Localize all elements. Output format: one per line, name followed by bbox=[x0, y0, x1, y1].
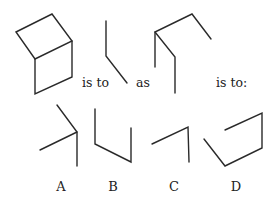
option-c-figure[interactable] bbox=[152, 127, 189, 162]
phrase-as: as bbox=[136, 77, 150, 90]
analogy-diagram: is to as is to: A B C D bbox=[0, 0, 276, 202]
phrase-is-to: is to bbox=[82, 77, 109, 90]
option-c-label[interactable]: C bbox=[169, 180, 179, 193]
option-d-figure[interactable] bbox=[204, 113, 262, 166]
figure-source-result bbox=[106, 21, 127, 83]
option-d-label[interactable]: D bbox=[231, 180, 241, 193]
option-a-label[interactable]: A bbox=[56, 180, 65, 193]
option-a-figure[interactable] bbox=[40, 105, 77, 166]
figure-source-cube bbox=[16, 14, 72, 94]
option-b-figure[interactable] bbox=[95, 109, 131, 162]
figure-target bbox=[155, 14, 211, 93]
phrase-is-to-colon: is to: bbox=[216, 77, 247, 90]
option-b-label[interactable]: B bbox=[108, 180, 118, 193]
